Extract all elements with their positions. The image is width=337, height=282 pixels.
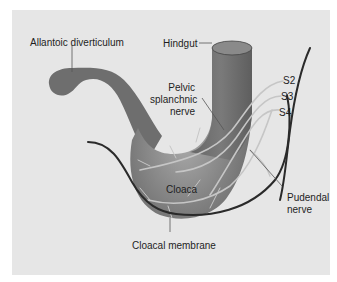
label-cloaca: Cloaca [166, 184, 197, 195]
label-s4: S4 [279, 107, 291, 118]
label-pudendal-2: nerve [287, 204, 312, 215]
label-s3: S3 [281, 91, 293, 102]
label-pelvic-splanchnic-1: Pelvic [150, 82, 195, 93]
hindgut-opening [212, 41, 252, 55]
label-pudendal-1: Pudendal [287, 192, 329, 203]
label-allantoic-diverticulum: Allantoic diverticulum [30, 37, 124, 48]
label-s2: S2 [283, 75, 295, 86]
body-wall-curve-right [280, 48, 310, 200]
label-pelvic-splanchnic-2: splanchnic [150, 94, 195, 105]
hindgut-tube [190, 48, 252, 160]
label-cloacal-membrane: Cloacal membrane [132, 240, 216, 251]
label-pelvic-splanchnic-3: nerve [150, 106, 195, 117]
label-hindgut: Hindgut [163, 38, 197, 49]
